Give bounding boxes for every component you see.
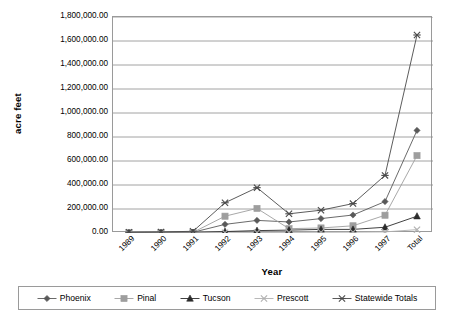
legend-label: Prescott xyxy=(277,293,309,304)
y-tick-label: 1,800,000.00 xyxy=(44,12,108,20)
data-point-asterisk xyxy=(285,211,292,217)
data-point-diamond xyxy=(382,198,388,204)
y-tick-label: 0.00 xyxy=(44,228,108,236)
data-point-square xyxy=(121,295,127,301)
data-point-diamond xyxy=(318,216,324,222)
y-axis-title: acre feet xyxy=(12,69,23,159)
plot-area xyxy=(112,16,432,232)
legend-label: Statewide Totals xyxy=(355,293,417,304)
chart-legend: PhoenixPinalTucsonPrescottStatewide Tota… xyxy=(18,286,436,310)
data-point-asterisk xyxy=(349,201,356,207)
series-line xyxy=(129,130,417,232)
y-tick-label: 1,200,000.00 xyxy=(44,84,108,92)
legend-marker-cross-icon xyxy=(254,293,274,304)
data-point-triangle xyxy=(414,213,421,219)
legend-marker-diamond-icon xyxy=(37,293,57,304)
data-point-asterisk xyxy=(338,295,345,301)
data-point-asterisk xyxy=(221,200,228,206)
x-axis-title: Year xyxy=(112,266,432,277)
line-chart: acre feet 0.00200,000.00400,000.00600,00… xyxy=(0,0,455,328)
plot-svg xyxy=(113,17,433,233)
data-point-diamond xyxy=(254,217,260,223)
data-point-asterisk xyxy=(413,32,420,38)
data-point-square xyxy=(414,153,420,159)
legend-marker-triangle-icon xyxy=(180,293,200,304)
data-point-asterisk xyxy=(253,185,260,191)
data-point-square xyxy=(382,212,388,218)
legend-item[interactable]: Statewide Totals xyxy=(332,293,417,304)
y-tick-label: 400,000.00 xyxy=(44,180,108,188)
data-point-asterisk xyxy=(381,172,388,178)
y-tick-label: 1,400,000.00 xyxy=(44,60,108,68)
y-axis-tick-labels: 0.00200,000.00400,000.00600,000.00800,00… xyxy=(40,0,108,250)
data-point-square xyxy=(222,213,228,219)
y-tick-label: 800,000.00 xyxy=(44,132,108,140)
y-tick-label: 200,000.00 xyxy=(44,204,108,212)
data-point-asterisk xyxy=(317,207,324,213)
x-axis-tick-labels: 198919901991199219931994199519961997Tota… xyxy=(112,234,432,264)
legend-label: Pinal xyxy=(137,293,156,304)
legend-item[interactable]: Tucson xyxy=(180,293,231,304)
legend-label: Tucson xyxy=(203,293,231,304)
data-point-diamond xyxy=(44,295,50,301)
legend-marker-asterisk-icon xyxy=(332,293,352,304)
data-point-square xyxy=(254,205,260,211)
data-point-diamond xyxy=(286,219,292,225)
legend-item[interactable]: Phoenix xyxy=(37,293,91,304)
data-point-diamond xyxy=(414,127,420,133)
data-point-diamond xyxy=(350,212,356,218)
legend-item[interactable]: Prescott xyxy=(254,293,309,304)
legend-item[interactable]: Pinal xyxy=(114,293,156,304)
y-tick-label: 1,000,000.00 xyxy=(44,108,108,116)
y-tick-label: 600,000.00 xyxy=(44,156,108,164)
legend-label: Phoenix xyxy=(60,293,91,304)
y-tick-label: 1,600,000.00 xyxy=(44,36,108,44)
legend-marker-square-icon xyxy=(114,293,134,304)
series-line xyxy=(129,35,417,232)
data-point-diamond xyxy=(222,221,228,227)
